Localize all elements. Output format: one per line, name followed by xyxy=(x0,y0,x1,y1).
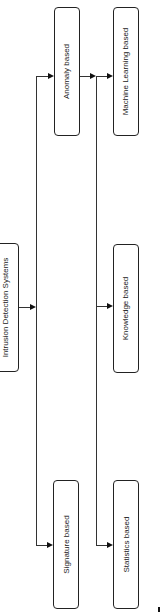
node-label: Knowledge based xyxy=(122,277,131,341)
node-signature-based: Signature based xyxy=(53,480,79,609)
node-label: Signature based xyxy=(62,515,71,573)
trunk-line-1 xyxy=(36,76,37,546)
connector-ml xyxy=(96,76,107,77)
trunk-line-2 xyxy=(96,76,97,546)
node-label: Intrusion Detection Systems xyxy=(2,258,11,358)
connector-signature xyxy=(36,545,47,546)
node-label: Machine Learning based xyxy=(122,28,131,116)
node-label: Anomaly based xyxy=(63,44,72,99)
connector-statistics xyxy=(96,545,107,546)
node-label: Statistics based xyxy=(122,516,131,572)
connector-anomaly xyxy=(36,76,48,77)
node-anomaly-based: Anomaly based xyxy=(54,7,80,136)
connector-knowledge xyxy=(96,306,107,307)
node-intrusion-detection-systems: Intrusion Detection Systems xyxy=(0,243,19,372)
node-machine-learning-based: Machine Learning based xyxy=(113,7,139,136)
node-statistics-based: Statistics based xyxy=(113,480,139,609)
page-artifact-mark xyxy=(158,607,160,612)
node-knowledge-based: Knowledge based xyxy=(113,244,139,373)
